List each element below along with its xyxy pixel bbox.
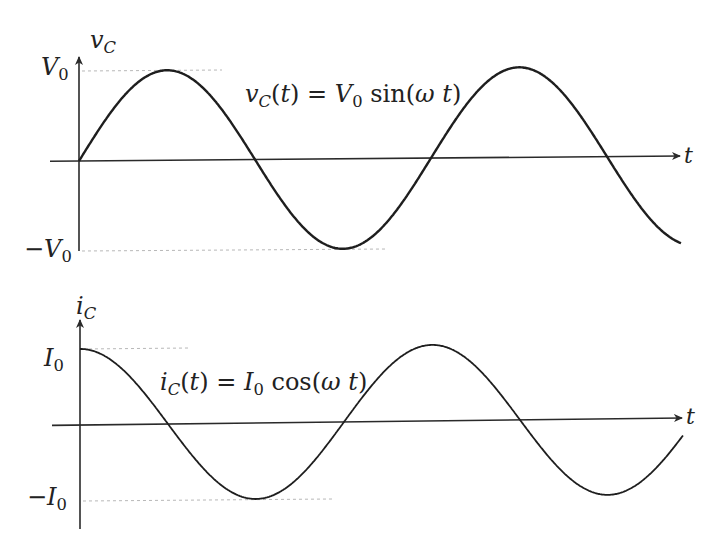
time-axis-label: t <box>684 145 693 167</box>
voltage-equation: vC(t) = V0 sin(ω t) <box>245 82 461 110</box>
i0-guide-line <box>83 348 190 349</box>
current-plot <box>52 320 683 529</box>
v0-tick-label: V0 <box>41 55 69 83</box>
time-axis <box>52 418 682 425</box>
neg-i0-guide-line <box>83 499 332 501</box>
voltage-axis-label: vC <box>90 28 116 56</box>
current-equation: iC(t) = I0 cos(ω t) <box>160 370 367 398</box>
neg-v0-tick-label: −V0 <box>24 237 72 265</box>
neg-i0-tick-label: −I0 <box>27 485 67 513</box>
time-axis <box>50 156 680 161</box>
v0-guide-line <box>82 70 222 71</box>
i0-tick-label: I0 <box>44 346 64 374</box>
current-axis-label: iC <box>76 294 96 322</box>
time-axis-label-bottom: t <box>686 406 695 428</box>
